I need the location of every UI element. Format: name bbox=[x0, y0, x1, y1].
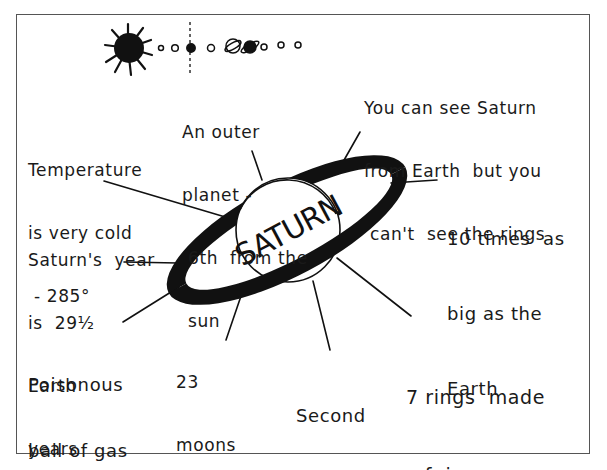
fact-rings: 7 rings made of ice bbox=[406, 332, 545, 470]
fact-line: 6th from the bbox=[182, 248, 308, 269]
connector-rank bbox=[313, 281, 330, 350]
planet-dots bbox=[159, 39, 302, 55]
fact-line: Saturn's year bbox=[28, 250, 155, 271]
jupiter-icon bbox=[224, 39, 243, 53]
fact-line: planet - bbox=[182, 185, 308, 206]
fact-line: Poisonous bbox=[28, 374, 141, 396]
fact-line: An outer bbox=[182, 122, 308, 143]
fact-line: moons bbox=[176, 435, 236, 456]
fact-line: Second bbox=[296, 404, 366, 428]
venus-icon bbox=[172, 45, 179, 52]
earth-icon bbox=[187, 44, 195, 52]
solar-system-strip bbox=[105, 22, 301, 75]
sun-icon bbox=[105, 24, 152, 75]
fact-line: 7 rings made bbox=[406, 384, 545, 410]
saturn-small-icon bbox=[240, 39, 261, 55]
uranus-icon bbox=[261, 44, 267, 50]
mars-icon bbox=[208, 45, 215, 52]
fact-line: Temperature bbox=[28, 160, 142, 181]
fact-line: 23 bbox=[176, 372, 236, 393]
fact-gas: Poisonous ball of gas | no life is possi… bbox=[28, 330, 141, 470]
fact-line: ball of gas bbox=[28, 440, 141, 462]
saturn-diagram: SATURN An outer planet - 6th from the su… bbox=[0, 0, 607, 470]
fact-line: big as the bbox=[447, 301, 565, 326]
pluto-icon bbox=[295, 42, 301, 48]
mercury-icon bbox=[159, 46, 164, 51]
fact-line: 10 times as bbox=[447, 226, 565, 251]
fact-line: You can see Saturn bbox=[364, 98, 545, 119]
fact-line: of ice bbox=[406, 462, 545, 470]
fact-line: sun bbox=[182, 311, 308, 332]
fact-moons: 23 moons bbox=[176, 330, 236, 470]
neptune-icon bbox=[278, 42, 284, 48]
fact-rank: Second largest planet bbox=[296, 356, 366, 470]
